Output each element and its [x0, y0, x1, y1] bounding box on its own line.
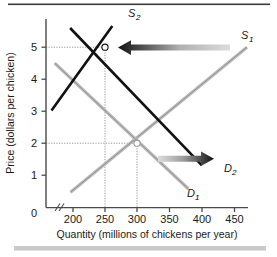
y-tick-label-0: 0	[31, 207, 37, 219]
top-divider-rule	[8, 4, 270, 6]
y-tick-label-2: 2	[31, 137, 37, 149]
x-tick-label-250: 250	[96, 213, 114, 225]
supply-demand-chart: 5 4 3 2 1 0 200 250 300 350 400 450 S 1 …	[0, 0, 277, 257]
curve-label-d2-subscript: 2	[231, 168, 237, 177]
curve-label-d1: D	[187, 187, 195, 199]
x-tick-label-300: 300	[128, 213, 146, 225]
y-tick-label-4: 4	[31, 73, 37, 85]
x-tick-label-400: 400	[193, 213, 211, 225]
y-axis-title: Price (dollars per chicken)	[4, 52, 16, 173]
curve-label-d2: D	[224, 162, 232, 174]
y-tick-label-3: 3	[31, 105, 37, 117]
curve-label-d1-subscript: 1	[195, 193, 199, 202]
equilibrium-new-marker	[102, 44, 108, 50]
x-tick-label-200: 200	[64, 213, 82, 225]
curve-label-s2-subscript: 2	[135, 13, 141, 22]
x-tick-label-450: 450	[225, 213, 243, 225]
curve-label-s1: S	[241, 29, 249, 41]
curve-label-s1-subscript: 1	[249, 35, 253, 44]
y-tick-label-5: 5	[31, 41, 37, 53]
equilibrium-original-marker	[134, 140, 140, 146]
x-tick-label-350: 350	[160, 213, 178, 225]
bottom-divider-bar	[14, 246, 266, 251]
y-tick-label-1: 1	[31, 169, 37, 181]
x-axis-title: Quantity (millions of chickens per year)	[57, 228, 238, 240]
curve-label-s2: S	[128, 7, 136, 19]
